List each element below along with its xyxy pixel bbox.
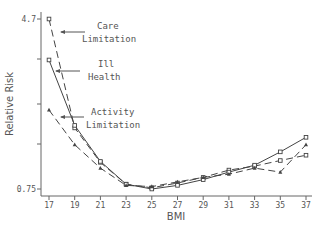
data-point-marker [304,136,308,140]
x-ticks [49,196,306,200]
relative-risk-chart: 1719212325272931333537 4.7 0.75 Relative… [0,0,325,228]
data-point-marker [279,150,283,154]
x-tick-label: 37 [301,201,311,210]
series-line [49,19,306,188]
x-tick-label: 25 [147,201,157,210]
x-tick-label: 31 [224,201,234,210]
data-point-marker [176,184,180,188]
data-point-marker [304,142,308,146]
data-point-marker [99,160,103,164]
data-point-marker [304,153,308,157]
x-tick-label: 21 [96,201,106,210]
y-axis-title: Relative Risk [4,72,15,136]
annotation-care-line1: Care [97,21,119,31]
annotation-ill-line1: Ill [98,59,114,69]
x-axis-title: BMI [167,211,185,222]
x-tick-label: 19 [70,201,80,210]
x-tick-label: 27 [173,201,183,210]
data-point-marker [279,159,283,163]
x-tick-label: 23 [121,201,131,210]
data-point-marker [47,108,51,112]
annotation-act-line1: Activity [91,107,135,117]
x-tick-label: 33 [250,201,260,210]
x-tick-label: 29 [198,201,208,210]
arrowhead-activity-icon [60,115,65,119]
y-tick-label-bottom: 0.75 [17,185,36,194]
x-tick-labels: 1719212325272931333537 [44,201,311,210]
data-point-marker [73,124,77,128]
arrowhead-ill-icon [55,69,60,73]
x-tick-label: 17 [44,201,54,210]
annotation-care-limitation: Care Limitation [60,21,136,44]
data-point-marker [47,17,51,21]
annotation-act-line2: Limitation [86,120,140,130]
data-point-marker [73,142,77,146]
annotation-ill-health: Ill Health [55,59,121,82]
annotation-care-line2: Limitation [82,34,136,44]
y-ticks [37,19,41,189]
x-tick-label: 35 [275,201,285,210]
data-point-marker [98,166,102,170]
annotation-ill-line2: Health [88,72,121,82]
data-point-marker [47,58,51,62]
arrowhead-care-icon [60,30,65,34]
y-tick-label-top: 4.7 [22,15,37,24]
